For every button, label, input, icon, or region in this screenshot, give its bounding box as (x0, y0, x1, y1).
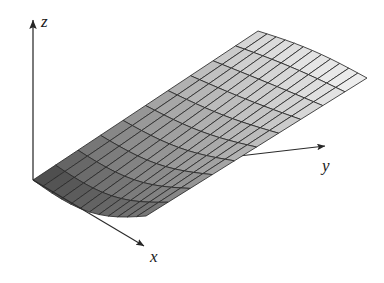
axis-label-y: y (322, 157, 330, 174)
surface-mesh (33, 31, 367, 217)
surface-plot-figure: z x y (0, 0, 384, 283)
axis-label-x: x (150, 248, 158, 265)
axis-label-z: z (41, 13, 48, 30)
surface-plot-canvas (0, 0, 384, 283)
